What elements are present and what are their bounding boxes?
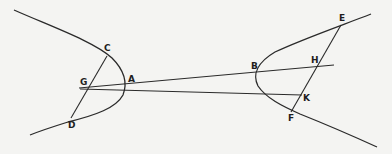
label-K: K: [303, 94, 310, 103]
diagram-svg: [0, 0, 392, 154]
diagram-canvas: C G A D B H K E F: [0, 0, 392, 154]
label-B: B: [251, 62, 258, 71]
label-F: F: [288, 114, 294, 123]
left-hyperbola-branch: [14, 10, 125, 135]
label-A: A: [128, 75, 135, 84]
label-H: H: [311, 56, 319, 65]
segment-GK: [80, 89, 302, 95]
segment-GH: [79, 65, 334, 88]
label-D: D: [68, 121, 75, 130]
right-hyperbola-branch: [256, 14, 377, 147]
label-E: E: [339, 14, 345, 23]
label-G: G: [80, 78, 87, 87]
label-C: C: [104, 44, 111, 53]
